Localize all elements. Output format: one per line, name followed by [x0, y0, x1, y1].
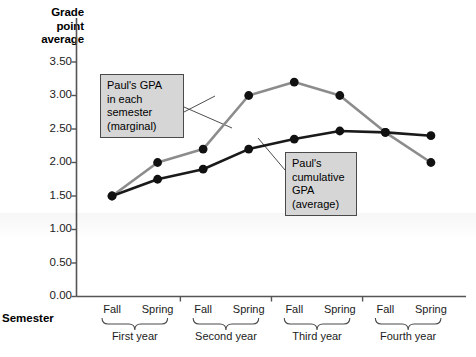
- callout-cumulative-line-1: Paul's: [292, 157, 351, 171]
- data-point-marker: [199, 165, 208, 174]
- data-point-marker: [427, 131, 436, 140]
- y-axis-tick-label: 0.50: [28, 256, 72, 268]
- callout-cumulative-line-4: (average): [292, 198, 351, 212]
- year-group-braces: [102, 318, 441, 330]
- data-point-marker: [290, 135, 299, 144]
- x-axis-tick-label: Fall: [103, 303, 121, 315]
- data-point-marker: [427, 158, 436, 167]
- x-axis-tick-label: Fall: [285, 303, 303, 315]
- gpa-line-chart: Grade point average Semester 0.000.501.0…: [0, 0, 476, 357]
- y-axis-tick-label: 1.00: [28, 222, 72, 234]
- callout-marginal-line-3: semester: [107, 106, 178, 120]
- y-axis-tick-label: 2.50: [28, 122, 72, 134]
- year-group-label: First year: [112, 330, 158, 342]
- y-axis-tick-label: 3.00: [28, 88, 72, 100]
- year-group-label: Second year: [195, 330, 257, 342]
- callout-cumulative-line-3: GPA: [292, 184, 351, 198]
- callout-cumulative-line-2: cumulative: [292, 171, 351, 185]
- data-point-marker: [153, 175, 162, 184]
- data-point-marker: [335, 91, 344, 100]
- callout-leader-lines: [184, 96, 285, 170]
- y-axis-tick-label: 0.00: [28, 289, 72, 301]
- x-axis-tick-label: Spring: [142, 303, 174, 315]
- callout-leader-line: [184, 96, 215, 112]
- year-group-label: Third year: [292, 330, 342, 342]
- year-group-brace: [193, 318, 259, 330]
- data-point-marker: [290, 78, 299, 87]
- data-point-marker: [199, 145, 208, 154]
- x-axis-tick-label: Spring: [233, 303, 265, 315]
- y-axis-tick-label: 2.00: [28, 155, 72, 167]
- data-point-marker: [108, 192, 117, 201]
- data-point-marker: [244, 145, 253, 154]
- data-point-marker: [244, 91, 253, 100]
- data-point-marker: [381, 128, 390, 137]
- year-group-label: Fourth year: [380, 330, 436, 342]
- callout-marginal-line-1: Paul's GPA: [107, 79, 178, 93]
- x-axis-tick-label: Fall: [376, 303, 394, 315]
- callout-marginal-line-2: in each: [107, 93, 178, 107]
- year-group-brace: [284, 318, 350, 330]
- year-group-brace: [102, 318, 168, 330]
- callout-cumulative: Paul's cumulative GPA (average): [285, 152, 357, 216]
- x-axis-tick-label: Spring: [415, 303, 447, 315]
- data-point-marker: [153, 158, 162, 167]
- y-axis-tick-label: 3.50: [28, 55, 72, 67]
- callout-marginal: Paul's GPA in each semester (marginal): [100, 74, 184, 138]
- x-axis-tick-label: Fall: [194, 303, 212, 315]
- callout-marginal-line-4: (marginal): [107, 120, 178, 134]
- year-group-brace: [375, 318, 441, 330]
- data-point-marker: [335, 127, 344, 136]
- y-axis-tick-label: 1.50: [28, 189, 72, 201]
- x-axis-tick-label: Spring: [324, 303, 356, 315]
